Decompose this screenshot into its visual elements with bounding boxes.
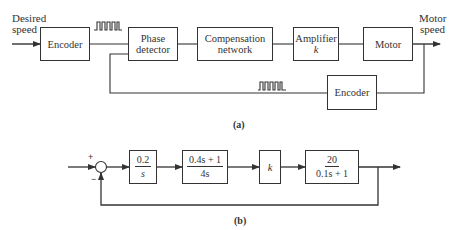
plus-sign: +: [88, 152, 93, 162]
output-label-speed: speed: [420, 24, 445, 35]
phase-detector-block: Phase detector: [128, 27, 178, 61]
caption-a: (a): [233, 119, 245, 130]
integrator-tf: 0.2 s: [135, 155, 152, 179]
feedback-encoder-label: Encoder: [335, 87, 370, 98]
plant-num: 20: [325, 155, 339, 167]
compensator-den: 4s: [201, 167, 210, 179]
plant-den: 0.1s + 1: [316, 167, 348, 179]
pulse-train-forward: [94, 22, 122, 30]
gain-label: k: [268, 162, 273, 173]
compensator-num: 0.4s + 1: [187, 155, 223, 167]
plant-block: 20 0.1s + 1: [305, 150, 359, 184]
integrator-block: 0.2 s: [129, 150, 157, 184]
phase-detector-label-1: Phase: [141, 33, 166, 44]
integrator-den: s: [141, 167, 145, 179]
summing-junction: [96, 162, 107, 173]
motor-block: Motor: [363, 27, 413, 61]
feedback-encoder-block: Encoder: [327, 75, 377, 110]
amplifier-block: Amplifier k: [293, 27, 339, 61]
amplifier-label: Amplifier: [295, 33, 336, 44]
amplifier-gain-label: k: [314, 44, 319, 55]
integrator-num: 0.2: [135, 155, 152, 167]
gain-block: k: [259, 150, 281, 184]
compensator-block: 0.4s + 1 4s: [182, 150, 228, 184]
plant-tf: 20 0.1s + 1: [316, 155, 348, 179]
caption-b: (b): [234, 215, 246, 226]
motor-label: Motor: [375, 39, 401, 50]
encoder-label: Encoder: [48, 39, 83, 50]
compensation-network-block: Compensation network: [197, 27, 273, 61]
phase-detector-label-2: detector: [136, 44, 170, 55]
pulse-train-feedback: [258, 82, 286, 90]
input-label-speed: speed: [12, 24, 37, 35]
encoder-block: Encoder: [40, 27, 90, 61]
minus-sign: −: [91, 174, 96, 184]
compensator-tf: 0.4s + 1 4s: [187, 155, 223, 179]
compensation-label-2: network: [218, 44, 252, 55]
compensation-label-1: Compensation: [205, 33, 266, 44]
